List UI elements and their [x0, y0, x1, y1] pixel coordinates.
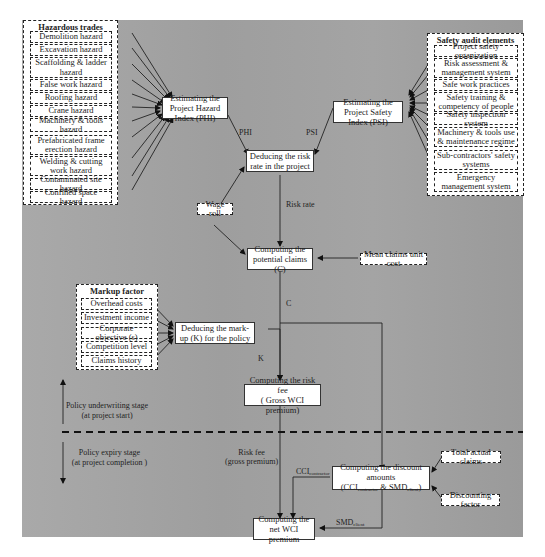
discount-cci: (CCI — [341, 482, 358, 492]
stage-expiry-1: Policy expiry stage — [62, 448, 157, 458]
discount-line1: Computing the discount amounts — [335, 462, 427, 482]
label-phi: PHI — [239, 128, 252, 137]
label-risk-fee-2: (gross premium) — [225, 457, 278, 466]
discount-cci-sub: contractor — [358, 487, 378, 492]
estimate-phi-box: Estimating the Project Hazard Index (PHI… — [162, 97, 228, 119]
discount-smd: & SMD — [378, 482, 407, 492]
diagram-canvas: Hazardous trades Demolition hazard Excav… — [0, 0, 545, 557]
safety-subcontractors: Sub-contractors' safety systems — [434, 150, 518, 170]
markup-overhead-costs: Overhead costs — [81, 298, 152, 310]
label-k: K — [258, 354, 264, 363]
deduce-markup-box: Deducing the mark-up (K) for the policy — [175, 322, 255, 344]
discount-smd-sub: client — [407, 487, 418, 492]
discount-close: ) — [418, 482, 421, 492]
label-smd-sub: client — [353, 522, 364, 527]
mean-claims-unit-cost-input: Mean claims unit cost — [360, 253, 427, 265]
discount-line2: (CCIcontractor & SMDclient) — [341, 482, 422, 495]
hazard-scaffolding: Scaffolding & ladder hazard — [30, 57, 112, 78]
hazard-confined-space: Confined space hazard — [30, 191, 112, 203]
markup-claims-history: Claims history — [81, 355, 152, 367]
stage-underwriting-1: Policy underwriting stage — [62, 401, 152, 411]
deduce-risk-rate-box: Deducing the risk rate in the project — [246, 150, 314, 172]
label-cci: CCIcontractor — [296, 467, 330, 478]
compute-risk-fee-box: Computing the risk fee ( Gross WCI premi… — [244, 384, 321, 406]
stage-expiry: Policy expiry stage (at project completi… — [62, 448, 157, 468]
safety-project-organization: Project safety organization — [434, 45, 518, 57]
safety-work-practices: Safe work practices — [434, 79, 518, 91]
safety-emergency-management: Emergency management system — [434, 172, 518, 192]
hazard-welding-cutting: Welding & cutting work hazard — [30, 156, 112, 176]
stage-expiry-2: (at project completion ) — [62, 458, 157, 468]
label-smd-text: SMD — [336, 518, 353, 527]
hazard-prefab-frame: Prefabricated frame erection hazard — [30, 135, 112, 155]
safety-machinery-tools-use: Machinery & tools use & maintenance regi… — [434, 127, 518, 147]
wage-roll-input: Wage roll — [197, 203, 233, 215]
label-cci-sub: contractor — [309, 471, 329, 476]
hazard-demolition: Demolition hazard — [30, 31, 112, 43]
markup-corporate-objective: Corporate objective (s) — [81, 327, 152, 339]
stage-underwriting-2: (at project start) — [62, 411, 152, 421]
label-c: C — [286, 299, 291, 308]
safety-risk-assessment: Risk assessment & management system — [434, 58, 518, 78]
label-risk-fee: Risk fee (gross premium) — [225, 448, 278, 466]
label-risk-rate: Risk rate — [286, 200, 315, 209]
label-cci-text: CCI — [296, 467, 309, 476]
markup-competition-level: Competition level — [81, 341, 152, 353]
compute-net-premium-box: Computing the net WCI premium — [253, 518, 315, 540]
label-smd: SMDclient — [336, 518, 364, 529]
label-psi: PSI — [306, 128, 318, 137]
stage-underwriting: Policy underwriting stage (at project st… — [62, 401, 152, 421]
risk-fee-line1: Computing the risk fee — [247, 375, 318, 395]
hazard-roofing: Roofing hazard — [30, 92, 112, 104]
compute-discount-box: Computing the discount amounts (CCIcontr… — [332, 466, 430, 490]
markup-factor-title: Markup factor — [77, 286, 157, 296]
compute-potential-claims-box: Computing the potential claims (C) — [247, 248, 313, 270]
risk-fee-line2: ( Gross WCI premium) — [247, 395, 318, 415]
total-actual-claims-input: Total actual claims — [441, 451, 501, 463]
estimate-psi-box: Estimating the Project Safety Index (PSI… — [333, 101, 403, 123]
hazard-excavation: Excavation hazard — [30, 44, 112, 56]
hazard-machinery-tools: Machinery & tools hazard — [30, 118, 112, 132]
label-risk-fee-1: Risk fee — [225, 448, 278, 457]
discounting-factor-input: Discounting factor — [441, 494, 500, 506]
hazard-false-work: False work hazard — [30, 79, 112, 91]
safety-inspection-system: Safety inspection system — [434, 113, 518, 125]
